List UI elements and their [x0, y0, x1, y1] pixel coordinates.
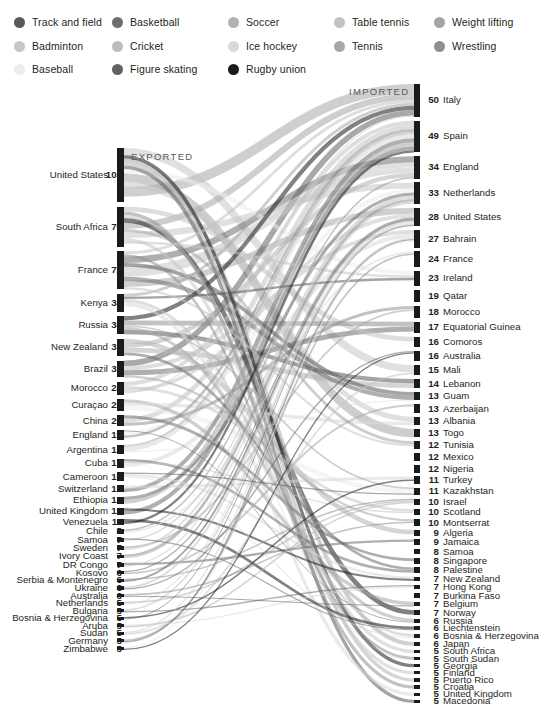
imported-node-bar[interactable] — [414, 610, 420, 615]
imported-node-bar[interactable] — [414, 678, 420, 681]
imported-node-bar[interactable] — [414, 488, 420, 495]
imported-node-bar[interactable] — [414, 530, 420, 536]
exported-node-value: 5 — [100, 644, 122, 654]
imported-node-bar[interactable] — [414, 365, 420, 375]
imported-node-bar[interactable] — [414, 290, 420, 302]
imported-node-bar[interactable] — [414, 567, 420, 572]
imported-node-bar[interactable] — [414, 700, 420, 703]
imported-node-bar[interactable] — [414, 182, 420, 204]
imported-node-value: 10 — [424, 518, 439, 528]
imported-node-bar[interactable] — [414, 619, 420, 623]
imported-node-label: Scotland — [443, 507, 481, 517]
imported-node-bar[interactable] — [414, 664, 420, 667]
imported-node-bar[interactable] — [414, 593, 420, 598]
imported-node-bar[interactable] — [414, 156, 420, 178]
imported-node-value: 11 — [424, 486, 439, 496]
imported-node-bar[interactable] — [414, 230, 420, 248]
imported-node-bar[interactable] — [414, 465, 420, 473]
imported-node-label: Mali — [443, 365, 461, 375]
imported-node-label: Guam — [443, 391, 469, 401]
imported-node-label: France — [443, 254, 473, 264]
imported-node-bar[interactable] — [414, 429, 420, 437]
imported-axis-label: IMPORTED — [349, 86, 409, 97]
imported-node-value: 11 — [424, 475, 439, 485]
imported-node-label: England — [443, 162, 479, 172]
imported-node-label: Bahrain — [443, 234, 476, 244]
imported-node-bar[interactable] — [414, 671, 420, 674]
imported-node-value: 17 — [424, 322, 439, 332]
imported-node-value: 27 — [424, 234, 439, 244]
imported-node-bar[interactable] — [414, 404, 420, 412]
imported-node-bar[interactable] — [414, 84, 420, 117]
imported-node-label: Togo — [443, 428, 464, 438]
imported-node-bar[interactable] — [414, 208, 420, 226]
imported-node-bar[interactable] — [414, 251, 420, 267]
imported-node-bar[interactable] — [414, 306, 420, 318]
exported-node-value: 34 — [100, 298, 122, 308]
imported-node-bar[interactable] — [414, 577, 420, 582]
imported-node-bar[interactable] — [414, 322, 420, 333]
imported-node-value: 13 — [424, 391, 439, 401]
imported-node-label: Italy — [443, 95, 461, 105]
imported-node-bar[interactable] — [414, 650, 420, 653]
imported-node-bar[interactable] — [414, 337, 420, 347]
imported-node-bar[interactable] — [414, 121, 420, 153]
exported-node-value: 76 — [100, 222, 122, 232]
imported-node-bar[interactable] — [414, 441, 420, 449]
imported-node-bar[interactable] — [414, 657, 420, 660]
imported-node-value: 28 — [424, 212, 439, 222]
imported-node-label: Netherlands — [443, 188, 495, 198]
imported-node-bar[interactable] — [414, 271, 420, 286]
imported-node-label: Macedonia — [443, 696, 490, 706]
imported-node-bar[interactable] — [414, 634, 420, 638]
imported-node-bar[interactable] — [414, 602, 420, 607]
imported-node-bar[interactable] — [414, 626, 420, 630]
imported-node-label: Israel — [443, 497, 467, 507]
imported-node-value: 34 — [424, 162, 439, 172]
imported-node-label: Nigeria — [443, 464, 474, 474]
imported-node-bar[interactable] — [414, 549, 420, 554]
exported-node-value: 34 — [100, 320, 122, 330]
exported-node-value: 13 — [100, 484, 122, 494]
imported-node-bar[interactable] — [414, 392, 420, 400]
imported-node-bar[interactable] — [414, 476, 420, 483]
imported-node-bar[interactable] — [414, 417, 420, 425]
imported-node-bar[interactable] — [414, 685, 420, 688]
imported-node-value: 19 — [424, 291, 439, 301]
imported-node-bar[interactable] — [414, 379, 420, 388]
imported-node-bar[interactable] — [414, 499, 420, 506]
imported-node-label: Turkey — [443, 475, 472, 485]
exported-node-value: 32 — [100, 364, 122, 374]
imported-node-label: Equatorial Guinea — [443, 322, 521, 332]
imported-node-label: Comoros — [443, 337, 482, 347]
imported-node-label: Spain — [443, 131, 468, 141]
imported-node-label: United States — [443, 212, 501, 222]
exported-node-value: 72 — [100, 265, 122, 275]
imported-node-bar[interactable] — [414, 585, 420, 590]
imported-node-value: 12 — [424, 440, 439, 450]
imported-node-value: 13 — [424, 416, 439, 426]
imported-node-label: Azerbaijan — [443, 404, 489, 414]
imported-node-value: 13 — [424, 428, 439, 438]
exported-axis-label: EXPORTED — [131, 151, 194, 162]
imported-node-label: Australia — [443, 351, 481, 361]
imported-node-bar[interactable] — [414, 642, 420, 646]
exported-node-value: 12 — [100, 506, 122, 516]
imported-node-value: 14 — [424, 379, 439, 389]
imported-node-bar[interactable] — [414, 539, 420, 545]
imported-node-value: 18 — [424, 307, 439, 317]
imported-node-value: 24 — [424, 254, 439, 264]
imported-node-bar[interactable] — [414, 693, 420, 696]
imported-node-value: 15 — [424, 365, 439, 375]
imported-node-bar[interactable] — [414, 453, 420, 461]
exported-node-value: 17 — [100, 458, 122, 468]
exported-node-value: 18 — [100, 445, 122, 455]
imported-node-bar[interactable] — [414, 519, 420, 526]
imported-node-label: Mexico — [443, 452, 474, 462]
imported-node-bar[interactable] — [414, 558, 420, 563]
imported-node-bar[interactable] — [414, 509, 420, 516]
exported-node-value: 16 — [100, 472, 122, 482]
exported-node-value: 103 — [100, 170, 122, 180]
imported-node-bar[interactable] — [414, 351, 420, 361]
imported-node-value: 5 — [424, 696, 439, 706]
